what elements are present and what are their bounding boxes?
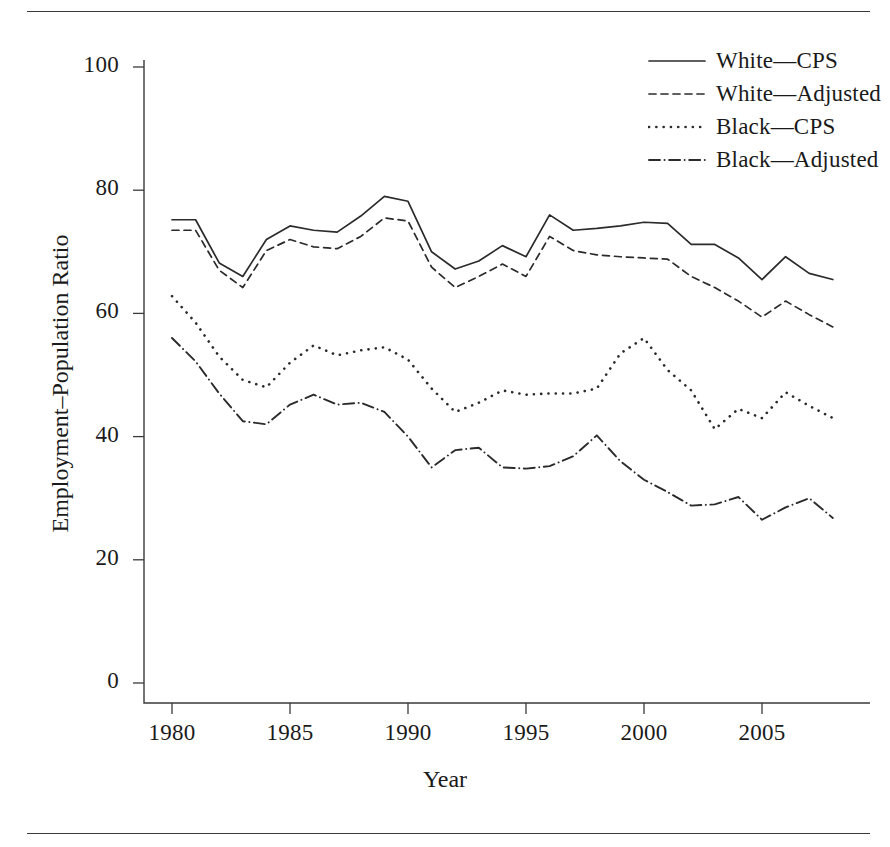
chart-legend: White—CPSWhite—AdjustedBlack—CPSBlack—Ad… [648, 44, 888, 176]
y-tick-marks [133, 67, 144, 683]
legend-label: White—Adjusted [716, 81, 881, 107]
legend-label: Black—Adjusted [716, 147, 879, 173]
dotted-line-swatch [648, 120, 706, 134]
y-axis-title: Employment–Population Ratio [47, 124, 74, 644]
x-tick-label: 1985 [240, 720, 340, 746]
dashed-line-swatch [648, 87, 706, 101]
x-tick-label: 1990 [358, 720, 458, 746]
x-tick-label: 1980 [122, 720, 222, 746]
legend-item: Black—Adjusted [648, 143, 888, 176]
legend-item: White—Adjusted [648, 77, 888, 110]
data-series-group [172, 196, 833, 519]
dashdot-line-swatch [648, 153, 706, 167]
legend-label: Black—CPS [716, 114, 835, 140]
legend-label: White—CPS [716, 48, 838, 74]
series-line-dashdot [172, 338, 833, 520]
x-axis-title: Year [0, 766, 890, 793]
x-tick-label: 1995 [476, 720, 576, 746]
y-tick-label: 100 [14, 52, 119, 78]
x-tick-label: 2000 [594, 720, 694, 746]
series-line-dashed [172, 218, 833, 327]
series-line-solid [172, 196, 833, 279]
x-tick-marks [172, 703, 762, 714]
x-tick-label: 2005 [712, 720, 812, 746]
legend-item: Black—CPS [648, 110, 888, 143]
series-line-dotted [172, 296, 833, 429]
y-tick-label: 0 [14, 668, 119, 694]
figure-container: 020406080100 198019851990199520002005 Ye… [0, 0, 890, 847]
solid-line-swatch [648, 54, 706, 68]
legend-item: White—CPS [648, 44, 888, 77]
